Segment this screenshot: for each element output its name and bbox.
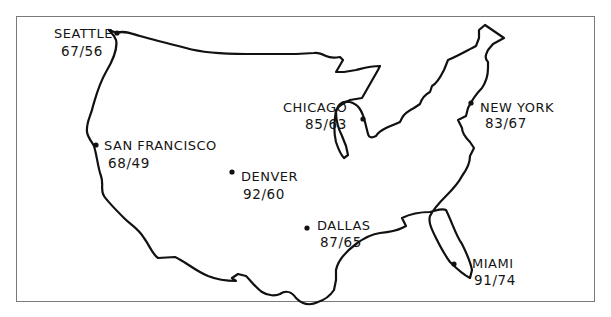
city-label-dallas: DALLAS — [317, 219, 371, 232]
city-label-miami: MIAMI — [472, 257, 514, 270]
city-dot-new-york[interactable] — [468, 100, 473, 105]
city-label-chicago: CHICAGO — [283, 101, 347, 114]
city-dot-dallas[interactable] — [304, 225, 309, 230]
city-label-new-york: NEW YORK — [480, 101, 554, 114]
city-label-san-francisco: SAN FRANCISCO — [104, 139, 217, 152]
city-temps-denver: 92/60 — [243, 188, 285, 202]
city-temps-chicago: 85/63 — [305, 118, 347, 132]
city-label-denver: DENVER — [241, 170, 298, 183]
city-temps-dallas: 87/65 — [320, 236, 362, 250]
city-temps-seattle: 67/56 — [61, 45, 103, 59]
city-temps-san-francisco: 68/49 — [108, 157, 150, 171]
city-dot-chicago[interactable] — [360, 116, 365, 121]
city-dot-seattle[interactable] — [114, 30, 119, 35]
city-label-seattle: SEATTLE — [54, 27, 113, 40]
city-dot-denver[interactable] — [229, 169, 234, 174]
city-temps-new-york: 83/67 — [485, 117, 527, 131]
city-dot-san-francisco[interactable] — [93, 142, 98, 147]
city-dot-miami[interactable] — [451, 261, 456, 266]
city-temps-miami: 91/74 — [474, 274, 516, 288]
